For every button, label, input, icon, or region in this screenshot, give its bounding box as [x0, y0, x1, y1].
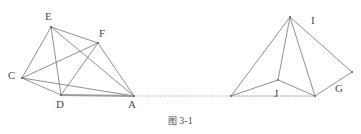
- edge-G-I: [315, 72, 352, 96]
- vertex-dot-f: [97, 42, 99, 44]
- edge-C-D: [22, 78, 61, 95]
- vertex-dot-d: [60, 94, 62, 96]
- figure-caption-number: 3-1: [179, 115, 192, 126]
- vertex-label-e: E: [45, 11, 52, 22]
- edge-E-C: [22, 27, 51, 78]
- vertex-dot-k: [230, 95, 232, 97]
- edge-I_apex-K: [231, 17, 290, 96]
- edge-F-A: [98, 43, 134, 96]
- vertex-label-c: C: [8, 70, 16, 81]
- figure-caption: 图3-1: [0, 114, 361, 127]
- vertex-label-i: I: [311, 15, 315, 26]
- left-solid-edges: [22, 27, 134, 96]
- figure-caption-cjk: 图: [168, 116, 179, 126]
- edge-I_apex-G: [290, 17, 315, 96]
- edge-J-G: [278, 80, 315, 96]
- edge-F-C: [22, 43, 98, 78]
- right-solid-edges: [231, 17, 352, 96]
- vertex-label-j: J: [274, 88, 278, 99]
- edge-K-J: [231, 80, 278, 96]
- figure-container: E F C D A I G J 图3-1: [0, 0, 361, 134]
- edge-C-A: [22, 78, 134, 96]
- vertex-dot-a: [133, 95, 135, 97]
- vertex-dot-e: [50, 26, 52, 28]
- edge-D-A: [61, 95, 134, 96]
- edge-E-F: [51, 27, 98, 43]
- vertex-dot-j: [277, 79, 279, 81]
- edge-I_apex-I: [290, 17, 352, 72]
- vertex-dots: [21, 16, 353, 97]
- vertex-label-a: A: [128, 99, 136, 110]
- vertex-dot-i_apex: [289, 16, 291, 18]
- vertex-dot-c: [21, 77, 23, 79]
- vertex-label-d: D: [56, 99, 64, 110]
- vertex-label-g: G: [335, 83, 343, 94]
- edge-E-A: [51, 27, 134, 96]
- edge-I_apex-J: [278, 17, 290, 80]
- vertex-dot-g: [314, 95, 316, 97]
- vertex-dot-i: [351, 71, 353, 73]
- vertex-label-f: F: [99, 28, 105, 39]
